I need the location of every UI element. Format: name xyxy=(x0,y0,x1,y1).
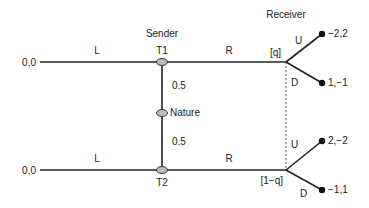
payoff-top-left: 0,0 xyxy=(22,57,36,68)
terminal-bottom-down xyxy=(319,187,325,193)
action-bottom-up: U xyxy=(291,139,298,150)
terminal-bottom-up xyxy=(319,138,325,144)
action-top-up: U xyxy=(295,35,302,46)
sender-label: Sender xyxy=(146,28,179,39)
payoff-top-up: −2,2 xyxy=(328,28,348,39)
receiver-label: Receiver xyxy=(266,9,306,20)
payoff-bottom-up: 2,−2 xyxy=(328,135,348,146)
action-bottom-down: D xyxy=(300,188,307,199)
node-t2 xyxy=(157,167,168,174)
action-t1-left: L xyxy=(94,45,100,56)
action-top-down: D xyxy=(291,77,298,88)
prob-t1: 0.5 xyxy=(172,80,186,91)
t1-label: T1 xyxy=(156,45,168,56)
action-t2-left: L xyxy=(94,153,100,164)
payoff-bottom-down: −1,1 xyxy=(328,184,348,195)
action-t2-right: R xyxy=(225,153,232,164)
edge-top-up xyxy=(286,34,322,62)
node-nature xyxy=(157,110,168,117)
t2-label: T2 xyxy=(156,177,168,188)
action-t1-right: R xyxy=(225,45,232,56)
edge-bottom-down xyxy=(286,170,322,190)
belief-top: [q] xyxy=(270,47,281,58)
payoff-bottom-left: 0,0 xyxy=(22,165,36,176)
belief-bottom: [1−q] xyxy=(260,175,283,186)
nature-label: Nature xyxy=(170,107,200,118)
node-t1 xyxy=(157,59,168,66)
terminal-top-down xyxy=(319,80,325,86)
payoff-top-down: 1,−1 xyxy=(328,77,348,88)
terminal-top-up xyxy=(319,31,325,37)
game-tree: Sender T1 T2 Receiver Nature 0.5 0.5 L R… xyxy=(0,0,369,208)
prob-t2: 0.5 xyxy=(172,136,186,147)
